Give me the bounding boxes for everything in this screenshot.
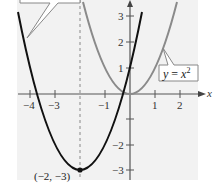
x-tick-label: −3 <box>48 99 60 111</box>
x-tick-label: −1 <box>98 99 110 111</box>
svg-text:y = x2: y = x2 <box>162 66 190 81</box>
y-tick-label: 3 <box>118 10 124 22</box>
x-tick-label: −4 <box>23 99 35 111</box>
y-tick-label: −2 <box>112 139 124 151</box>
callout-eq: = <box>168 67 181 81</box>
y-tick-label: −3 <box>112 164 124 176</box>
vertex-label: (−2, −3) <box>34 170 71 183</box>
y-tick-label: 1 <box>118 62 124 74</box>
vertex-point <box>77 167 82 172</box>
parabola-chart: x −4 −3 −1 1 2 3 2 1 −2 −3 (−2, −3) <box>0 0 215 192</box>
callout-exp: 2 <box>186 66 190 75</box>
y-tick-label: 2 <box>118 36 124 48</box>
x-tick-label: 2 <box>177 99 183 111</box>
x-tick-label: 1 <box>152 99 158 111</box>
x-axis-arrow-icon <box>198 91 206 97</box>
x-axis-label: x <box>206 87 212 99</box>
